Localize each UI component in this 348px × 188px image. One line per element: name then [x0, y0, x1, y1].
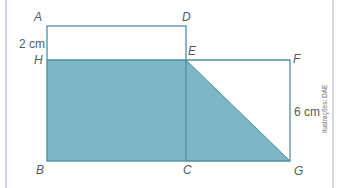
measure-fg: 6 cm	[294, 105, 320, 119]
geometry-figure: A D H E F B C G 2 cm 6 cm Ilustrações: D…	[0, 0, 348, 188]
label-b: B	[36, 163, 44, 177]
label-d: D	[182, 10, 191, 24]
label-h: H	[34, 53, 43, 67]
label-e: E	[188, 44, 197, 58]
label-a: A	[33, 10, 42, 24]
measure-ah: 2 cm	[19, 37, 45, 51]
shaded-region	[47, 60, 290, 161]
illustration-credit: Ilustrações: DAE	[321, 84, 329, 133]
label-g: G	[294, 164, 303, 178]
label-c: C	[183, 163, 192, 177]
label-f: F	[293, 52, 301, 66]
